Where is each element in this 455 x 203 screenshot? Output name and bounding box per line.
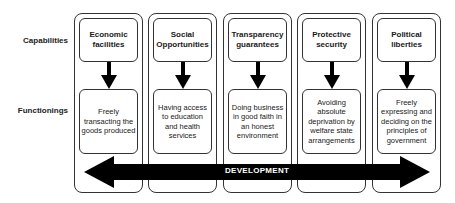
- down-arrow-icon: [324, 62, 340, 89]
- down-arrow-icon: [399, 62, 415, 89]
- capability-box: Protective security: [302, 18, 361, 62]
- capability-box: Transparency guarantees: [228, 18, 287, 62]
- functioning-box: Doing business in good faith in an hones…: [228, 89, 287, 154]
- capabilities-row-label: Capabilities: [2, 36, 68, 45]
- development-label: DEVELOPMENT: [225, 166, 289, 175]
- capability-box: Political liberties: [377, 18, 436, 62]
- functioning-box: Freely transacting the goods produced: [79, 89, 138, 154]
- capability-box: Economic facilities: [79, 18, 138, 62]
- down-arrow-icon: [101, 62, 117, 89]
- down-arrow-icon: [250, 62, 266, 89]
- functionings-row-label: Functionings: [2, 106, 68, 115]
- functioning-box: Having access to education and health se…: [153, 89, 212, 154]
- capability-box: Social Opportunities: [153, 18, 212, 62]
- functioning-box: Avoiding absolute deprivation by welfare…: [302, 89, 361, 154]
- functioning-box: Freely expressing and deciding on the pr…: [377, 89, 436, 154]
- down-arrow-icon: [175, 62, 191, 89]
